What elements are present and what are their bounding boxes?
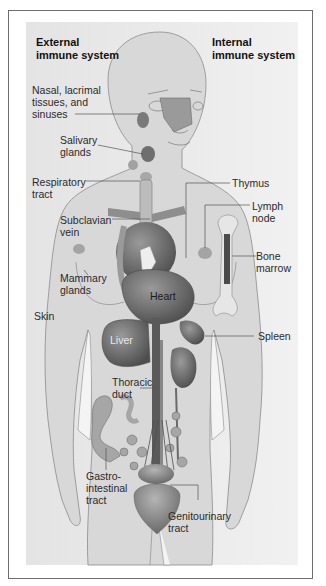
label-thymus: Thymus: [232, 177, 269, 189]
parotid-gland: [137, 112, 149, 128]
label-respiratory-tract: Respiratory tract: [32, 176, 86, 200]
label-lymph-node: Lymph node: [252, 200, 283, 224]
organ-label-liver: Liver: [110, 334, 133, 346]
label-skin: Skin: [34, 310, 54, 322]
uterus: [138, 464, 174, 484]
axillary-node-left: [73, 244, 85, 254]
axillary-node-right: [198, 247, 212, 259]
label-gastrointestinal-tract: Gastro- intestinal tract: [86, 470, 127, 506]
label-nasal-lacrimal-sinuses: Nasal, lacrimal tissues, and sinuses: [32, 84, 101, 120]
marrow: [224, 234, 230, 284]
heading-external-immune-system: External immune system: [36, 36, 119, 61]
aorta: [152, 318, 160, 468]
organ-label-heart: Heart: [150, 290, 176, 302]
label-spleen: Spleen: [258, 330, 291, 342]
label-subclavian-vein: Subclavian vein: [60, 214, 111, 238]
label-salivary-glands: Salivary glands: [60, 134, 97, 158]
label-bone-marrow: Bone marrow: [256, 250, 291, 274]
salivary-gland: [141, 146, 155, 162]
label-mammary-glands: Mammary glands: [60, 272, 107, 296]
label-genitourinary-tract: Genitourinary tract: [168, 510, 231, 534]
label-thoracic-duct: Thoracic duct: [112, 376, 152, 400]
lymph-small: [128, 160, 138, 170]
kidney-organ: [170, 347, 196, 388]
heading-internal-immune-system: Internal immune system: [212, 36, 295, 61]
